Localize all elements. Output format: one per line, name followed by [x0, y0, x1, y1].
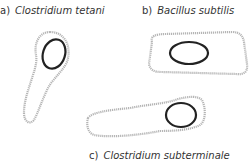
subterminal-spore-icon [166, 103, 196, 127]
cell-clostridium-tetani [24, 32, 69, 122]
cell-wall-outline [149, 32, 247, 74]
cell-bacillus-subtilis [149, 32, 247, 74]
central-spore-icon [170, 42, 208, 64]
cell-wall-outline [87, 97, 205, 136]
bacteria-diagram [0, 0, 252, 167]
terminal-spore-icon [39, 36, 69, 71]
cell-clostridium-subterminale [87, 97, 205, 136]
